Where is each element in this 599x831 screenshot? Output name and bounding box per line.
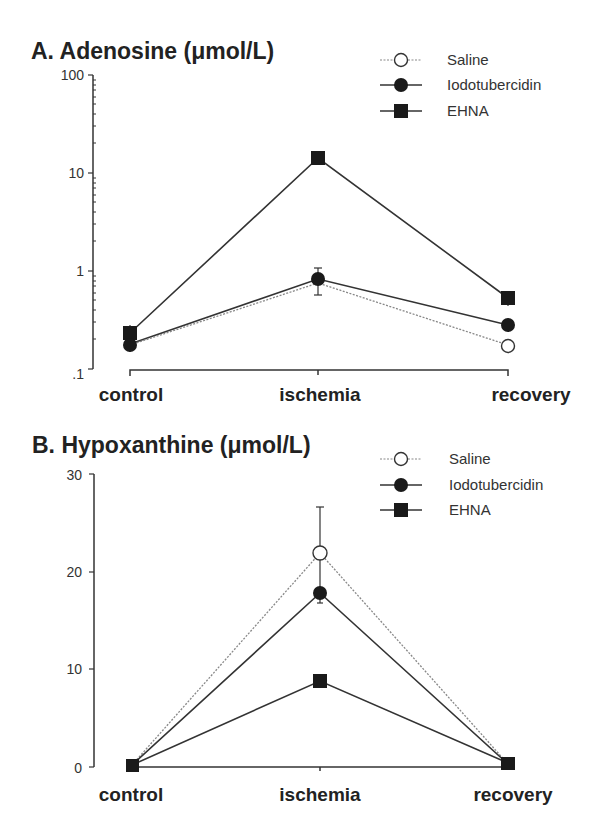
panel-a-ytick-100: 100 xyxy=(61,67,85,83)
panel-a-chart: 100 10 1 .1 control ischemia recovery xyxy=(61,51,571,405)
panel-b-xlabel-ischemia: ischemia xyxy=(279,784,361,805)
panel-b-chart: 30 20 10 0 control ischemia recovery xyxy=(66,450,553,805)
panel-b-legend-saline: Saline xyxy=(449,450,491,467)
panel-a-ytick-1: 1 xyxy=(76,263,84,279)
legend-filled-square-icon xyxy=(394,104,408,118)
panel-b-line-ehna xyxy=(132,681,508,765)
legend-filled-square-icon xyxy=(394,503,408,517)
legend-open-circle-icon xyxy=(395,54,408,67)
panel-a-xlabel-recovery: recovery xyxy=(491,384,571,405)
panel-b-ytick-20: 20 xyxy=(66,564,82,580)
panel-a-line-iodotubercidin xyxy=(130,279,508,344)
panel-b-marker-saline-ischemia xyxy=(313,546,327,560)
panel-a-xlabel-ischemia: ischemia xyxy=(279,384,361,405)
panel-b-ytick-10: 10 xyxy=(66,661,82,677)
panel-b-ytick-30: 30 xyxy=(66,467,82,483)
panel-a-legend: Saline Iodotubercidin EHNA xyxy=(380,51,541,119)
panel-a-legend-iodotubercidin: Iodotubercidin xyxy=(447,76,541,93)
legend-filled-circle-icon xyxy=(394,478,408,492)
panel-a-ytick-10: 10 xyxy=(68,165,84,181)
panel-a-x-axis xyxy=(130,370,508,376)
panel-a-line-saline xyxy=(130,283,508,345)
panel-b-ytick-0: 0 xyxy=(74,760,82,776)
panel-a-ytick-0.1: .1 xyxy=(72,366,84,382)
panel-a-xlabel-control: control xyxy=(99,384,163,405)
panel-b-xlabel-recovery: recovery xyxy=(473,784,553,805)
panel-b-markers-ehna xyxy=(126,674,515,772)
panel-b-xlabel-control: control xyxy=(99,784,163,805)
legend-filled-circle-icon xyxy=(394,78,408,92)
panel-a-legend-ehna: EHNA xyxy=(447,102,489,119)
figure-canvas: 100 10 1 .1 control ischemia recovery xyxy=(0,0,599,831)
legend-open-circle-icon xyxy=(395,453,408,466)
panel-b-legend-ehna: EHNA xyxy=(449,501,491,518)
panel-b-markers-iodotubercidin xyxy=(313,586,327,600)
panel-a-legend-saline: Saline xyxy=(447,51,489,68)
panel-b-x-axis xyxy=(132,767,508,771)
panel-a-line-ehna xyxy=(130,158,508,333)
panel-b-legend-iodotubercidin: Iodotubercidin xyxy=(449,476,543,493)
panel-a-markers-saline xyxy=(502,340,515,353)
panel-b-legend: Saline Iodotubercidin EHNA xyxy=(380,450,543,518)
